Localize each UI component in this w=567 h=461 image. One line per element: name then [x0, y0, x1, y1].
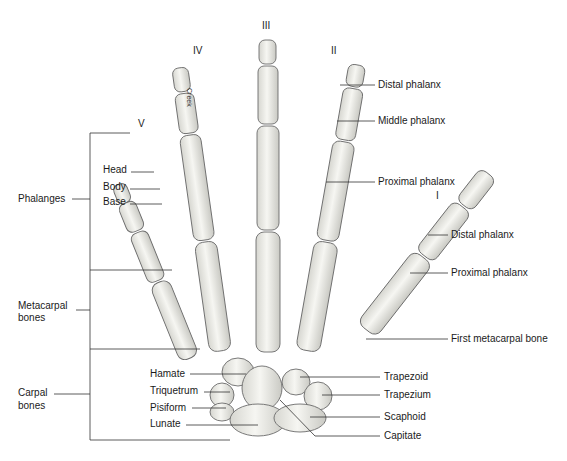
- numeral-ii: II: [331, 45, 337, 56]
- label-carpal-1: Carpal: [18, 387, 47, 398]
- label-trapezium: Trapezium: [384, 389, 431, 400]
- finger-v-bones: [110, 180, 199, 362]
- label-lunate: Lunate: [150, 418, 181, 429]
- label-proximal-phalanx: Proximal phalanx: [378, 176, 455, 187]
- finger-ii-bones: [296, 63, 370, 353]
- label-phalanges: Phalanges: [18, 193, 65, 204]
- carpal-bones: [210, 358, 332, 436]
- numeral-i: I: [436, 190, 439, 201]
- label-metacarpal-2: bones: [18, 312, 45, 323]
- label-metacarpal-1: Metacarpal: [18, 300, 67, 311]
- label-hamate: Hamate: [150, 368, 185, 379]
- label-pisiform: Pisiform: [150, 402, 186, 413]
- thumb-bones: [357, 167, 498, 338]
- label-distal-phalanx: Distal phalanx: [378, 79, 441, 90]
- label-base: Base: [103, 196, 126, 207]
- label-middle-phalanx: Middle phalanx: [378, 115, 445, 126]
- artist-signature: Creek: [186, 88, 193, 107]
- label-triquetrum: Triquetrum: [150, 385, 198, 396]
- label-body: Body: [103, 181, 126, 192]
- label-capitate: Capitate: [384, 430, 421, 441]
- label-trapezoid: Trapezoid: [384, 371, 428, 382]
- label-thumb-proximal-phalanx: Proximal phalanx: [451, 267, 528, 278]
- label-scaphoid: Scaphoid: [384, 411, 426, 422]
- finger-iii-bones: [256, 40, 280, 352]
- label-first-metacarpal: First metacarpal bone: [451, 333, 548, 344]
- hand-skeleton-diagram: III IV II V I Creek Phalanges Metacarpal…: [0, 0, 567, 461]
- numeral-iii: III: [262, 20, 270, 31]
- numeral-v: V: [138, 118, 145, 129]
- numeral-iv: IV: [193, 45, 202, 56]
- label-head: Head: [103, 164, 127, 175]
- label-carpal-2: bones: [18, 400, 45, 411]
- label-thumb-distal-phalanx: Distal phalanx: [451, 229, 514, 240]
